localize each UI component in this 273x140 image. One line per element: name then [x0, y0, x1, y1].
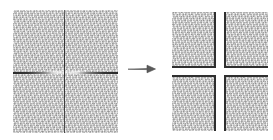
cut-edge-left: [224, 12, 226, 68]
figure-canvas: [0, 0, 273, 140]
source-image: [13, 10, 118, 133]
arrow-right-icon: [127, 60, 157, 78]
cut-edge-right: [214, 75, 216, 131]
cut-edge-bottom: [172, 66, 216, 68]
horizontal-crack-left: [13, 72, 60, 74]
tile-bottom-left: [172, 75, 216, 131]
cut-edge-top: [224, 75, 268, 77]
cut-edge-left: [224, 75, 226, 131]
tile-top-left: [172, 12, 216, 68]
cut-edge-bottom: [224, 66, 268, 68]
tile-top-right: [224, 12, 268, 68]
cut-edge-top: [172, 75, 216, 77]
horizontal-crack-right: [71, 72, 118, 74]
cut-edge-right: [214, 12, 216, 68]
tile-bottom-right: [224, 75, 268, 131]
vertical-crack: [64, 10, 65, 133]
